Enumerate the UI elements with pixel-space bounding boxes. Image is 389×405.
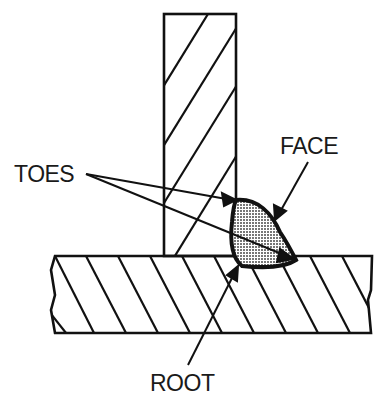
vertical-plate xyxy=(130,14,240,264)
weld-diagram: TOES FACE ROOT xyxy=(0,0,389,405)
face-leader xyxy=(274,162,308,220)
face-label: FACE xyxy=(280,133,338,159)
toes-label: TOES xyxy=(14,161,74,187)
root-label: ROOT xyxy=(150,370,215,396)
